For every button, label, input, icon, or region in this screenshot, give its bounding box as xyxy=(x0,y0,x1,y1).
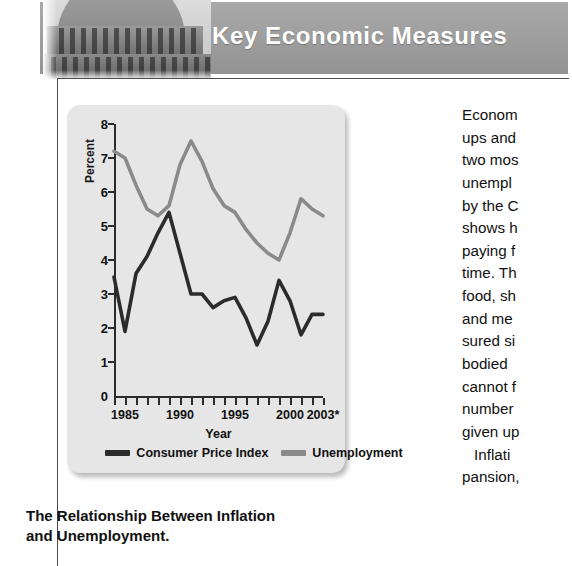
photo-column xyxy=(180,28,185,54)
page-header: Key Economic Measures xyxy=(0,0,568,80)
legend-label: Unemployment xyxy=(312,446,402,460)
chart-plot-area: Percent 012345678 19851990199520002003* … xyxy=(114,124,323,396)
chart-x-tick-mark xyxy=(312,398,314,405)
chart-x-tick-mark xyxy=(147,398,149,405)
chart-x-tick-mark xyxy=(279,398,281,405)
chart-x-tick-mark xyxy=(246,398,248,405)
chart-x-tick-mark xyxy=(290,398,292,405)
chart-x-tick-mark xyxy=(169,398,171,405)
body-text-line: pansion, xyxy=(462,466,572,489)
chart-y-tick-label: 3 xyxy=(101,287,108,302)
legend-label: Consumer Price Index xyxy=(136,446,268,460)
chart-x-tick-mark xyxy=(136,398,138,405)
chart-y-tick-label: 2 xyxy=(101,321,108,336)
photo-columns xyxy=(43,0,211,80)
page-title: Key Economic Measures xyxy=(212,22,568,50)
chart-line-unemployment xyxy=(114,141,323,260)
chart-y-tick-label: 4 xyxy=(101,253,108,268)
body-text-line: cannot f xyxy=(462,376,572,399)
chart-x-tick-label: 2003* xyxy=(307,408,340,422)
chart-y-tick-label: 8 xyxy=(101,117,108,132)
chart-x-tick-mark xyxy=(235,398,237,405)
body-text-line: by the C xyxy=(462,195,572,218)
chart-x-tick-label: 2000 xyxy=(276,408,304,422)
chart-x-tick-mark xyxy=(125,398,127,405)
body-text-line: time. Th xyxy=(462,262,572,285)
chart-x-tick-mark xyxy=(114,398,116,405)
chart-x-tick-label: 1990 xyxy=(166,408,194,422)
capitol-dome-photo xyxy=(43,0,211,80)
chart-x-tick-mark xyxy=(224,398,226,405)
chart-x-tick-label: 1995 xyxy=(221,408,249,422)
body-text-line: paying f xyxy=(462,240,572,263)
chart-y-tick-label: 1 xyxy=(101,355,108,370)
body-text-line: bodied xyxy=(462,353,572,376)
body-text-line: unempl xyxy=(462,172,572,195)
photo-column xyxy=(147,28,152,54)
photo-column xyxy=(136,28,141,54)
body-text-line: ups and xyxy=(462,127,572,150)
chart-card: Percent 012345678 19851990199520002003* … xyxy=(67,105,345,473)
chart-y-axis-label: Percent xyxy=(83,106,97,216)
chart-y-tick-label: 5 xyxy=(101,219,108,234)
photo-column xyxy=(103,28,108,54)
body-text-line: sured si xyxy=(462,330,572,353)
chart-x-axis-label: Year xyxy=(114,427,323,441)
photo-fade-left xyxy=(43,0,57,80)
photo-column xyxy=(81,28,86,54)
legend-swatch xyxy=(105,450,130,456)
caption-line-1: The Relationship Between Inflation xyxy=(26,506,336,526)
legend-item: Consumer Price Index xyxy=(105,446,268,460)
chart-x-tick-mark xyxy=(180,398,182,405)
body-text-column: Economups andtwo mosunemplby the Cshows … xyxy=(462,104,572,564)
chart-y-tick-label: 6 xyxy=(101,185,108,200)
chart-x-tick-mark xyxy=(268,398,270,405)
body-text-line: shows h xyxy=(462,217,572,240)
chart-series-lines xyxy=(114,124,323,396)
photo-column xyxy=(59,28,64,54)
body-text-line: given up xyxy=(462,421,572,444)
photo-column xyxy=(114,28,119,54)
chart-x-tick-mark xyxy=(158,398,160,405)
chart-x-tick-mark xyxy=(191,398,193,405)
body-text-line: food, sh xyxy=(462,285,572,308)
body-text-line: Econom xyxy=(462,104,572,127)
chart-y-tick-label: 7 xyxy=(101,151,108,166)
body-text-line: number xyxy=(462,398,572,421)
body-text-line: two mos xyxy=(462,149,572,172)
caption-line-2: and Unemployment. xyxy=(26,526,336,546)
chart-x-tick-mark xyxy=(202,398,204,405)
chart-y-tick-label: 0 xyxy=(101,389,108,404)
photo-column xyxy=(70,28,75,54)
chart-x-tick-mark xyxy=(257,398,259,405)
photo-column xyxy=(191,28,196,54)
photo-column xyxy=(158,28,163,54)
body-text-line: Inflati xyxy=(462,444,572,467)
photo-column xyxy=(92,28,97,54)
chart-x-tick-mark xyxy=(323,398,325,405)
chart-x-tick-mark xyxy=(301,398,303,405)
photo-column xyxy=(125,28,130,54)
chart-x-tick-label: 1985 xyxy=(111,408,139,422)
legend-swatch xyxy=(281,450,306,456)
chart-x-tick-mark xyxy=(213,398,215,405)
photo-column xyxy=(169,28,174,54)
figure-caption: The Relationship Between Inflation and U… xyxy=(26,506,336,546)
body-text-line: and me xyxy=(462,308,572,331)
chart-legend: Consumer Price IndexUnemployment xyxy=(118,446,390,460)
legend-item: Unemployment xyxy=(281,446,402,460)
